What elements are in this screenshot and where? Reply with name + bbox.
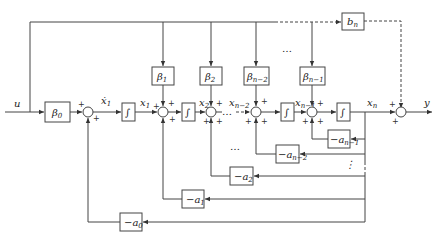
- beta-n-minus-2-block: βn−2: [244, 67, 269, 85]
- summing-junction-3: [206, 107, 216, 117]
- beta-n-minus-1-block: βn−1: [300, 67, 325, 85]
- svg-text:+: +: [389, 100, 396, 109]
- beta1-block: β1: [152, 67, 174, 85]
- svg-text:∫: ∫: [125, 107, 130, 118]
- svg-text:+: +: [392, 117, 399, 126]
- output-label-y: y: [423, 97, 430, 108]
- integrator-1: ∫: [122, 103, 135, 121]
- a0-block: −a0: [120, 213, 143, 231]
- svg-text:+: +: [153, 102, 160, 111]
- summing-junction-5: [307, 107, 317, 117]
- svg-text:x1: x1: [140, 97, 150, 110]
- a2-block: −a2: [230, 167, 253, 185]
- ellipsis-top: …: [282, 43, 292, 54]
- svg-text:∫: ∫: [185, 107, 190, 118]
- bn-block: bn: [342, 13, 364, 30]
- svg-text:+: +: [317, 99, 324, 108]
- ellipsis-vertical: ⋮: [345, 159, 355, 170]
- block-diagram: bn u β0 + + ẋ1 ∫ x1 β1 + + + ∫ x2 β2 +: [0, 0, 442, 239]
- svg-text:+: +: [93, 114, 100, 123]
- bn-dashed-path: [364, 21, 401, 108]
- a1-block: −a1: [182, 190, 205, 208]
- svg-text:∫: ∫: [284, 107, 289, 118]
- svg-text:xn−2: xn−2: [229, 97, 250, 110]
- ellipsis-bottom: …: [230, 141, 240, 152]
- svg-text:+: +: [168, 99, 175, 108]
- integrator-2: ∫: [182, 103, 195, 121]
- beta2-block: β2: [200, 67, 222, 85]
- svg-text:+: +: [261, 97, 268, 106]
- svg-text:+: +: [203, 117, 210, 126]
- svg-text:∫: ∫: [340, 107, 345, 118]
- a-n-minus-2-block: −an−2: [276, 145, 308, 163]
- summing-junction-4: [251, 107, 261, 117]
- output-summing-junction: [396, 107, 406, 117]
- input-label-u: u: [14, 98, 20, 109]
- integrator-n-minus-1: ∫: [281, 103, 294, 121]
- svg-text:+: +: [78, 100, 85, 109]
- svg-text:+: +: [317, 117, 324, 126]
- svg-text:+: +: [302, 117, 309, 126]
- svg-text:xn: xn: [367, 97, 378, 110]
- a-n-minus-1-block: −an−1: [328, 130, 359, 148]
- svg-text:+: +: [216, 117, 223, 126]
- svg-text:+: +: [261, 117, 268, 126]
- svg-text:+: +: [245, 117, 252, 126]
- svg-text:+: +: [169, 115, 176, 124]
- beta0-block: β0: [45, 102, 70, 122]
- x1-dot-label: ẋ1: [101, 95, 111, 108]
- integrator-n: ∫: [337, 103, 350, 121]
